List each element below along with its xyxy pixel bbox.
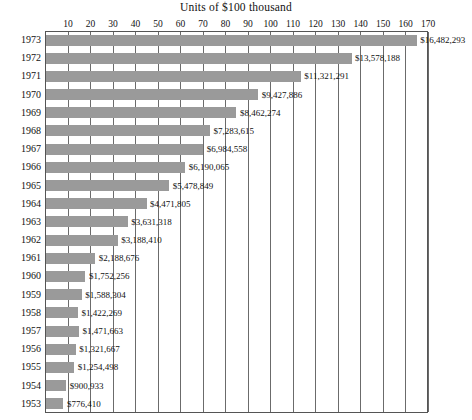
y-axis-label-1960: 1960: [0, 267, 41, 285]
bar-1962: [46, 235, 118, 246]
x-axis-tick-60: 60: [176, 18, 186, 31]
x-axis-tick-120: 120: [308, 18, 322, 31]
x-axis-tick-170: 170: [421, 18, 435, 31]
bar-value-label-1953: $776,410: [64, 395, 101, 413]
x-axis-tick-30: 30: [108, 18, 118, 31]
bar-1953: [46, 398, 63, 409]
y-axis-label-1961: 1961: [0, 249, 41, 267]
y-axis-label-1973: 1973: [0, 31, 41, 49]
bar-value-label-1965: $5,478,849: [170, 177, 214, 195]
bar-value-label-1971: $11,321,291: [301, 67, 349, 85]
bar-1968: [46, 125, 210, 136]
bar-row: 1967$6,984,558: [0, 140, 472, 158]
bar-row: 1954$900,933: [0, 377, 472, 395]
bar-1955: [46, 362, 74, 373]
bar-1964: [46, 198, 147, 209]
x-axis-tick-140: 140: [353, 18, 367, 31]
bar-value-label-1966: $6,190,065: [186, 158, 230, 176]
bar-1963: [46, 216, 128, 227]
bar-row: 1962$3,188,410: [0, 231, 472, 249]
x-axis-tick-130: 130: [331, 18, 345, 31]
bar-row: 1969$8,462,274: [0, 104, 472, 122]
bar-row: 1956$1,321,667: [0, 340, 472, 358]
bar-row: 1963$3,631,318: [0, 213, 472, 231]
bar-row: 1972$13,578,188: [0, 49, 472, 67]
bar-row: 1968$7,283,615: [0, 122, 472, 140]
bar-value-label-1957: $1,471,663: [80, 322, 124, 340]
y-axis-label-1962: 1962: [0, 231, 41, 249]
bar-value-label-1967: $6,984,558: [204, 140, 248, 158]
chart-title: Units of $100 thousand: [0, 1, 472, 13]
bar-value-label-1959: $1,588,304: [82, 286, 126, 304]
bar-value-label-1968: $7,283,615: [210, 122, 254, 140]
bar-value-label-1972: $13,578,188: [352, 49, 400, 67]
bar-1954: [46, 380, 66, 391]
bar-row: 1973$16,482,293: [0, 31, 472, 49]
bar-row: 1955$1,254,498: [0, 358, 472, 376]
bar-value-label-1969: $8,462,274: [237, 104, 281, 122]
bar-row: 1965$5,478,849: [0, 177, 472, 195]
bar-row: 1966$6,190,065: [0, 158, 472, 176]
x-axis-tick-110: 110: [286, 18, 300, 31]
bar-value-label-1962: $3,188,410: [118, 231, 162, 249]
bar-row: 1958$1,422,269: [0, 304, 472, 322]
y-axis-label-1964: 1964: [0, 195, 41, 213]
bar-rows: 1973$16,482,2931972$13,578,1881971$11,32…: [0, 31, 472, 413]
y-axis-label-1957: 1957: [0, 322, 41, 340]
bar-1967: [46, 144, 203, 155]
x-axis-tick-150: 150: [376, 18, 390, 31]
y-axis-label-1969: 1969: [0, 104, 41, 122]
y-axis-label-1971: 1971: [0, 67, 41, 85]
bar-1956: [46, 344, 76, 355]
y-axis-label-1959: 1959: [0, 286, 41, 304]
bar-value-label-1960: $1,752,256: [86, 267, 130, 285]
x-axis-tick-80: 80: [221, 18, 231, 31]
bar-row: 1961$2,188,676: [0, 249, 472, 267]
y-axis-label-1970: 1970: [0, 86, 41, 104]
bar-row: 1953$776,410: [0, 395, 472, 413]
bar-value-label-1958: $1,422,269: [79, 304, 123, 322]
bar-1958: [46, 307, 78, 318]
bar-row: 1964$4,471,805: [0, 195, 472, 213]
bar-1959: [46, 289, 82, 300]
bar-row: 1971$11,321,291: [0, 67, 472, 85]
y-axis-label-1967: 1967: [0, 140, 41, 158]
bar-1972: [46, 53, 352, 64]
bar-1966: [46, 162, 185, 173]
bar-1969: [46, 107, 236, 118]
bar-1970: [46, 89, 258, 100]
x-axis-tick-labels: 1020304050607080901001101201301401501601…: [0, 18, 472, 31]
y-axis-label-1956: 1956: [0, 340, 41, 358]
y-axis-label-1958: 1958: [0, 304, 41, 322]
x-axis-tick-50: 50: [153, 18, 163, 31]
y-axis-label-1972: 1972: [0, 49, 41, 67]
bar-row: 1970$9,427,886: [0, 86, 472, 104]
bar-1973: [46, 35, 417, 46]
y-axis-label-1953: 1953: [0, 395, 41, 413]
bar-chart: Units of $100 thousand 10203040506070809…: [0, 0, 472, 420]
y-axis-label-1954: 1954: [0, 377, 41, 395]
bar-row: 1959$1,588,304: [0, 286, 472, 304]
bar-1960: [46, 271, 85, 282]
y-axis-label-1955: 1955: [0, 358, 41, 376]
x-axis-tick-160: 160: [398, 18, 412, 31]
bar-value-label-1961: $2,188,676: [96, 249, 140, 267]
y-axis-label-1965: 1965: [0, 177, 41, 195]
bar-value-label-1964: $4,471,805: [147, 195, 191, 213]
x-axis-tick-90: 90: [243, 18, 253, 31]
bar-value-label-1963: $3,631,318: [128, 213, 172, 231]
bar-1957: [46, 326, 79, 337]
x-axis-tick-20: 20: [86, 18, 96, 31]
bar-value-label-1955: $1,254,498: [75, 358, 119, 376]
x-axis-tick-70: 70: [198, 18, 208, 31]
bar-1971: [46, 71, 301, 82]
bar-value-label-1970: $9,427,886: [259, 86, 303, 104]
bar-value-label-1973: $16,482,293: [417, 31, 465, 49]
bar-row: 1957$1,471,663: [0, 322, 472, 340]
bar-1961: [46, 253, 95, 264]
bar-row: 1960$1,752,256: [0, 267, 472, 285]
y-axis-label-1968: 1968: [0, 122, 41, 140]
bar-value-label-1956: $1,321,667: [76, 340, 120, 358]
y-axis-label-1963: 1963: [0, 213, 41, 231]
bar-1965: [46, 180, 169, 191]
